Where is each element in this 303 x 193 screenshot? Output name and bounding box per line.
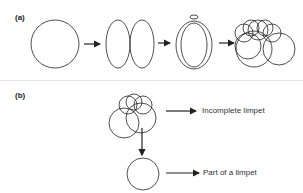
isolated-cell xyxy=(127,158,159,190)
four-cell-inner xyxy=(181,23,207,67)
two-cell-right xyxy=(130,20,154,68)
outcome-part-of-limpet: Part of a limpet xyxy=(203,168,257,177)
diagram-drawing xyxy=(0,0,303,193)
two-cell-left xyxy=(106,20,130,68)
outcome-incomplete-limpet: Incomplete limpet xyxy=(202,106,265,115)
one-cell-stage xyxy=(31,20,79,68)
